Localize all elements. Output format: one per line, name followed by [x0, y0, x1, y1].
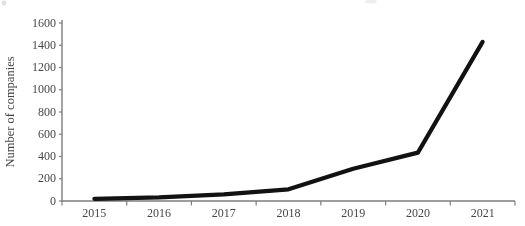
- x-tick-label: 2019: [341, 206, 365, 220]
- y-axis-title: Number of companies: [3, 56, 17, 167]
- scan-artifact: [365, 0, 377, 4]
- y-tick-label: 200: [38, 171, 56, 185]
- line-chart: Number of companies 02004006008001000120…: [0, 0, 525, 226]
- data-series: [94, 42, 482, 199]
- x-tick-label: 2017: [212, 206, 236, 220]
- axis-lines: [62, 20, 515, 201]
- x-tick-label: 2016: [147, 206, 171, 220]
- figure-canvas: Number of companies 02004006008001000120…: [0, 0, 525, 226]
- y-tick-label: 600: [38, 127, 56, 141]
- y-tick-label: 1600: [32, 16, 56, 30]
- x-tick-label: 2015: [82, 206, 106, 220]
- y-tick-label: 800: [38, 105, 56, 119]
- x-tick-label: 2020: [406, 206, 430, 220]
- y-tick-label: 1000: [32, 82, 56, 96]
- x-tick-label: 2021: [471, 206, 495, 220]
- companies-line-series: [94, 42, 482, 199]
- y-tick-label: 1200: [32, 60, 56, 74]
- y-tick-label: 0: [50, 194, 56, 208]
- y-tick-label: 400: [38, 149, 56, 163]
- y-axis-ticks: 02004006008001000120014001600: [32, 16, 62, 208]
- scan-artifact: [2, 1, 7, 6]
- x-tick-label: 2018: [277, 206, 301, 220]
- y-tick-label: 1400: [32, 38, 56, 52]
- x-axis-ticks: 2015201620172018201920202021: [62, 201, 515, 220]
